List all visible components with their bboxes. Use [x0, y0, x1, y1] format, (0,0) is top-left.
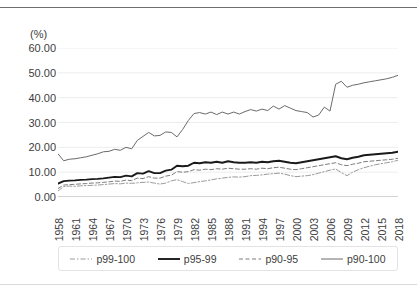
series-line-p90-100: [58, 75, 398, 160]
x-axis-tick: 1976: [155, 218, 167, 241]
legend-line-icon: [158, 255, 180, 263]
legend-line-icon: [70, 255, 92, 263]
y-axis-tick: 0.00: [4, 191, 56, 203]
x-axis-tick: 2000: [291, 218, 303, 241]
series-line-p95-99: [58, 152, 398, 184]
legend-item[interactable]: p95-99: [158, 253, 217, 265]
y-axis-tick: 30.00: [4, 117, 56, 129]
plot-area: [58, 48, 398, 197]
x-axis-tick: 1970: [121, 218, 133, 241]
legend-item[interactable]: p90-95: [239, 253, 298, 265]
y-axis-tick-labels: 60.0050.0040.0030.0020.0010.000.00: [0, 9, 56, 284]
x-axis-tick: 1982: [189, 218, 201, 241]
x-axis-tick-labels: 1958196119641967197019731976197919821985…: [58, 199, 398, 241]
legend-label: p95-99: [184, 253, 217, 265]
top-border-rule: [0, 7, 417, 8]
chart-legend: p99-100p95-99p90-95p90-100: [58, 246, 398, 271]
bottom-border-rule: [0, 284, 417, 285]
x-axis-tick: 1994: [257, 218, 269, 241]
y-axis-tick: 60.00: [4, 42, 56, 54]
legend-label: p90-100: [347, 253, 386, 265]
data-series: [58, 75, 398, 191]
x-axis-tick: 1964: [87, 218, 99, 241]
x-axis-tick: 2018: [393, 218, 405, 241]
x-axis-tick: 2006: [325, 218, 337, 241]
x-axis-tick: 2012: [359, 218, 371, 241]
x-axis-tick: 2015: [376, 218, 388, 241]
legend-line-icon: [239, 255, 261, 263]
x-axis-tick: 1961: [70, 218, 82, 241]
series-line-p99-100: [58, 160, 398, 191]
y-axis-tick: 50.00: [4, 67, 56, 79]
y-axis-tick: 10.00: [4, 166, 56, 178]
legend-label: p99-100: [96, 253, 135, 265]
x-axis-tick: 1973: [138, 218, 150, 241]
x-axis-tick: 1967: [104, 218, 116, 241]
x-axis-tick: 2003: [308, 218, 320, 241]
y-axis-tick: 40.00: [4, 92, 56, 104]
legend-label: p90-95: [265, 253, 298, 265]
chart-figure: (%) 60.0050.0040.0030.0020.0010.000.00 1…: [0, 0, 417, 292]
x-axis-tick: 1979: [172, 218, 184, 241]
gridlines: [58, 48, 398, 172]
x-axis-tick: 1991: [240, 218, 252, 241]
series-svg: [58, 48, 398, 197]
chart-canvas: (%) 60.0050.0040.0030.0020.0010.000.00 1…: [0, 9, 417, 284]
x-axis-tick: 2009: [342, 218, 354, 241]
x-axis-tick: 1997: [274, 218, 286, 241]
x-axis-tick: 1988: [223, 218, 235, 241]
legend-line-icon: [321, 255, 343, 263]
legend-item[interactable]: p99-100: [70, 253, 135, 265]
x-axis-tick: 1958: [53, 218, 65, 241]
legend-item[interactable]: p90-100: [321, 253, 386, 265]
x-axis-tick: 1985: [206, 218, 218, 241]
y-axis-tick: 20.00: [4, 141, 56, 153]
